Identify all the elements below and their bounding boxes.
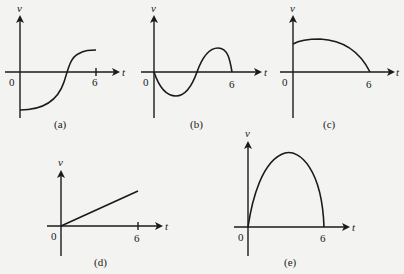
caption-e: (e) [284,256,297,269]
graph-c: v t 0 6 (c) [280,2,400,131]
origin-label: 0 [9,76,15,88]
curve-d [61,191,138,226]
t-label: t [352,221,356,233]
v-label: v [290,2,295,14]
velocity-time-graphs: v t 0 6 (a) v t 0 6 (b) v t 0 6 (c) v t … [0,0,404,274]
caption-d: (d) [94,256,107,269]
tick-label: 6 [229,78,235,90]
v-label: v [17,2,22,14]
t-label: t [122,66,126,78]
tick-label: 6 [366,78,372,90]
curve-c [293,39,370,72]
v-label: v [245,127,250,139]
t-label: t [264,66,268,78]
graph-e: v t 0 6 (e) [234,127,356,269]
graph-d: v t 0 6 (d) [47,156,169,269]
t-label: t [396,66,400,78]
caption-b: (b) [190,118,203,131]
caption-a: (a) [54,118,67,131]
origin-label: 0 [51,230,57,242]
origin-label: 0 [143,76,149,88]
v-label: v [58,156,63,168]
v-label: v [151,2,156,14]
tick-label: 6 [134,232,140,244]
graph-a: v t 0 6 (a) [5,2,126,131]
caption-c: (c) [323,118,336,131]
t-label: t [165,220,169,232]
tick-label: 6 [92,76,98,88]
curve-a [20,50,96,110]
origin-label: 0 [238,231,244,243]
tick-label: 6 [320,232,326,244]
curve-e [248,153,324,227]
graph-b: v t 0 6 (b) [141,2,268,131]
origin-label: 0 [282,76,288,88]
